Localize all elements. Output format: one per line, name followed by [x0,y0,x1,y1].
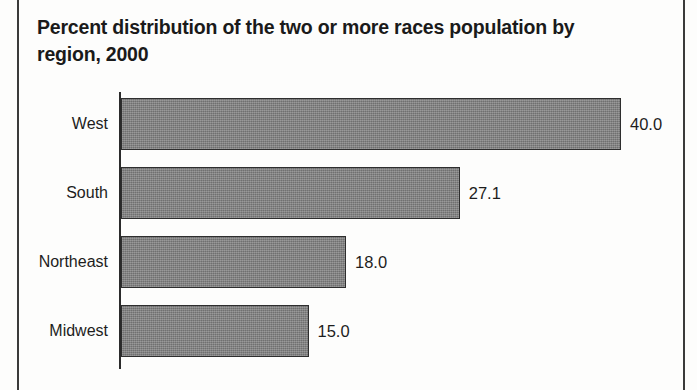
bar-row: Midwest15.0 [0,305,697,357]
bar-value-label: 40.0 [630,98,662,150]
bar-track [121,305,309,357]
bar-category-label: Northeast [0,236,108,288]
bar-track [121,236,346,288]
bar-value-label: 18.0 [355,236,387,288]
bar [121,98,621,150]
bar-row: Northeast18.0 [0,236,697,288]
bar-category-label: South [0,167,108,219]
bar-value-label: 15.0 [318,305,350,357]
bar-row: West40.0 [0,98,697,150]
bar [121,305,309,357]
plot-area: West40.0South27.1Northeast18.0Midwest15.… [0,0,697,390]
bar-value-label: 27.1 [469,167,501,219]
bar-track [121,98,621,150]
bar-row: South27.1 [0,167,697,219]
bar-category-label: West [0,98,108,150]
bar [121,236,346,288]
bar-category-label: Midwest [0,305,108,357]
chart-figure: Percent distribution of the two or more … [0,0,697,390]
bar [121,167,460,219]
bar-track [121,167,460,219]
